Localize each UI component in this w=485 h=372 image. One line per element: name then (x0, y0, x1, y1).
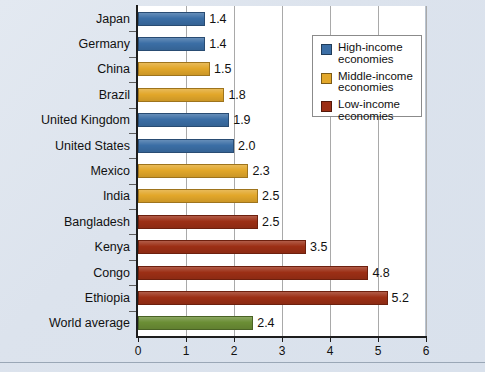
category-label: Japan (96, 12, 130, 26)
legend-label: Low-income economies (338, 99, 417, 123)
bar-value-label: 2.5 (262, 215, 279, 229)
legend-item-low: Low-income economies (313, 99, 421, 123)
category-label: China (97, 62, 130, 76)
x-tick-0 (138, 336, 139, 342)
y-tick (129, 209, 136, 210)
x-tick-4 (330, 336, 331, 342)
bar-value-label: 1.8 (228, 88, 245, 102)
legend-swatch-middle (321, 73, 332, 84)
category-label: Mexico (90, 164, 130, 178)
bar (138, 266, 368, 280)
bar-value-label: 5.2 (392, 291, 409, 305)
category-label: Ethiopia (85, 291, 130, 305)
category-label: Bangladesh (64, 215, 130, 229)
bar-value-label: 4.8 (372, 266, 389, 280)
bar (138, 88, 224, 102)
gridline-6 (426, 6, 427, 336)
category-label: Kenya (95, 240, 130, 254)
bar-value-label: 1.5 (214, 62, 231, 76)
y-tick (129, 285, 136, 286)
bar (138, 113, 229, 127)
bar-value-label: 3.5 (310, 240, 327, 254)
bar (138, 291, 388, 305)
category-label: Congo (93, 266, 130, 280)
legend-label: High-income economies (338, 42, 417, 66)
bar (138, 164, 248, 178)
y-tick (129, 234, 136, 235)
y-tick (129, 311, 136, 312)
legend-swatch-high (321, 44, 332, 55)
bar-value-label: 2.3 (252, 164, 269, 178)
y-tick (129, 57, 136, 58)
x-tick-6 (426, 336, 427, 342)
bar-value-label: 1.4 (209, 12, 226, 26)
x-tick-label-1: 1 (183, 344, 190, 358)
y-tick (129, 260, 136, 261)
bar-value-label: 2.5 (262, 189, 279, 203)
category-label: Brazil (99, 88, 130, 102)
y-tick (129, 184, 136, 185)
bar (138, 316, 253, 330)
bar-value-label: 1.4 (209, 37, 226, 51)
bar (138, 240, 306, 254)
legend: High-income economiesMiddle-income econo… (312, 35, 422, 117)
y-tick (129, 133, 136, 134)
chart-page: 0123456 JapanGermanyChinaBrazilUnited Ki… (0, 0, 485, 372)
x-tick-label-2: 2 (231, 344, 238, 358)
bar-value-label: 2.4 (257, 316, 274, 330)
category-label: World average (49, 316, 130, 330)
gridline-3 (282, 6, 283, 336)
bar (138, 189, 258, 203)
legend-swatch-low (321, 101, 332, 112)
x-tick-3 (282, 336, 283, 342)
x-tick-label-6: 6 (423, 344, 430, 358)
bar-value-label: 2.0 (238, 139, 255, 153)
x-tick-2 (234, 336, 235, 342)
y-tick (129, 31, 136, 32)
x-tick-label-0: 0 (135, 344, 142, 358)
bar (138, 37, 205, 51)
bar (138, 139, 234, 153)
y-tick (129, 158, 136, 159)
legend-item-high: High-income economies (313, 42, 421, 66)
category-label: India (103, 189, 130, 203)
x-tick-label-4: 4 (327, 344, 334, 358)
legend-label: Middle-income economies (338, 71, 417, 95)
page-bottom-rule (0, 362, 485, 363)
category-label: United States (55, 139, 130, 153)
category-label: United Kingdom (41, 113, 130, 127)
legend-item-middle: Middle-income economies (313, 71, 421, 95)
bar (138, 62, 210, 76)
bar-value-label: 1.9 (233, 113, 250, 127)
category-label: Germany (79, 37, 130, 51)
y-tick (129, 108, 136, 109)
x-tick-1 (186, 336, 187, 342)
bar (138, 215, 258, 229)
bar (138, 12, 205, 26)
x-tick-5 (378, 336, 379, 342)
x-tick-label-3: 3 (279, 344, 286, 358)
y-tick (129, 82, 136, 83)
x-tick-label-5: 5 (375, 344, 382, 358)
